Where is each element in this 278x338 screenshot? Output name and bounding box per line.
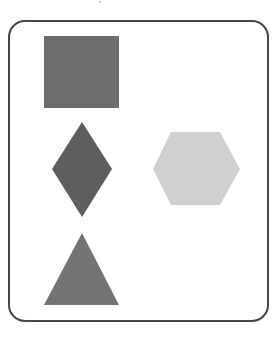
stray-dot [99, 1, 101, 3]
shapes-diagram [0, 0, 278, 338]
square-shape [44, 36, 119, 108]
